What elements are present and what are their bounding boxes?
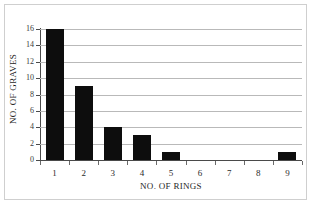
x-tick-mark bbox=[215, 161, 216, 165]
bar bbox=[278, 152, 296, 160]
bar-chart-figure: 0246810121416 123456789 NO. OF RINGS NO.… bbox=[0, 0, 315, 209]
bar bbox=[75, 86, 93, 160]
y-axis-title: NO. OF GRAVES bbox=[8, 29, 18, 149]
y-tick-label: 4 bbox=[16, 123, 34, 131]
x-tick-label: 3 bbox=[98, 168, 128, 178]
y-tick-label: 6 bbox=[16, 107, 34, 115]
x-tick-label: 4 bbox=[127, 168, 157, 178]
gridline bbox=[40, 78, 302, 79]
x-tick-mark bbox=[40, 161, 41, 165]
y-tick-label: 12 bbox=[16, 58, 34, 66]
bar bbox=[46, 29, 64, 160]
y-tick-label: 16 bbox=[16, 25, 34, 33]
bar bbox=[104, 127, 122, 160]
x-tick-mark bbox=[244, 161, 245, 165]
x-tick-mark bbox=[69, 161, 70, 165]
x-tick-mark bbox=[186, 161, 187, 165]
x-axis-title: NO. OF RINGS bbox=[40, 181, 302, 191]
y-tick-label: 2 bbox=[16, 140, 34, 148]
x-tick-mark bbox=[156, 161, 157, 165]
x-axis-baseline bbox=[40, 160, 302, 161]
gridline bbox=[40, 29, 302, 30]
y-tick-label: 8 bbox=[16, 91, 34, 99]
x-tick-mark bbox=[127, 161, 128, 165]
gridline bbox=[40, 62, 302, 63]
y-tick-label: 0 bbox=[16, 156, 34, 164]
y-tick-label: 14 bbox=[16, 41, 34, 49]
x-tick-label: 5 bbox=[156, 168, 186, 178]
bar bbox=[133, 135, 151, 160]
x-tick-mark bbox=[273, 161, 274, 165]
x-tick-label: 7 bbox=[214, 168, 244, 178]
x-tick-label: 6 bbox=[185, 168, 215, 178]
x-tick-mark bbox=[302, 161, 303, 165]
x-tick-label: 1 bbox=[40, 168, 70, 178]
x-tick-label: 2 bbox=[69, 168, 99, 178]
gridline bbox=[40, 45, 302, 46]
x-tick-label: 9 bbox=[272, 168, 302, 178]
bar bbox=[162, 152, 180, 160]
plot-area bbox=[40, 29, 302, 160]
x-tick-mark bbox=[98, 161, 99, 165]
y-tick-label: 10 bbox=[16, 74, 34, 82]
x-tick-label: 8 bbox=[243, 168, 273, 178]
